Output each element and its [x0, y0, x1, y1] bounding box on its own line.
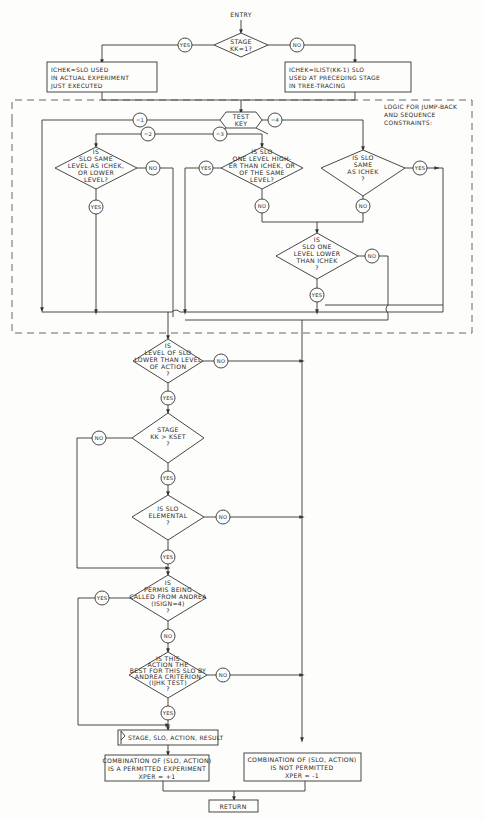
- no-connector: NO: [146, 161, 160, 175]
- yes-connector: YES: [161, 391, 175, 405]
- yes-connector: YES: [161, 471, 175, 485]
- svg-text:LEVEL OF SLO: LEVEL OF SLO: [145, 349, 192, 356]
- svg-text:YES: YES: [200, 165, 212, 171]
- decision-test-key: TEST KEY: [220, 112, 262, 128]
- entry-label: ENTRY: [230, 11, 252, 18]
- svg-text:NO: NO: [217, 358, 226, 364]
- svg-text:IS: IS: [93, 148, 99, 155]
- decision-best-action: IS THIS ACTION THE BEST FOR THIS SLO BY …: [129, 652, 207, 698]
- no-connector: NO: [92, 431, 106, 445]
- svg-text:OF ACTION: OF ACTION: [150, 363, 187, 370]
- svg-text:RETURN: RETURN: [219, 803, 246, 810]
- key-2-connector: =2: [141, 127, 155, 141]
- svg-text:IN ACTUAL EXPERIMENT: IN ACTUAL EXPERIMENT: [51, 74, 129, 81]
- svg-text:USED AT PRECEDING STAGE: USED AT PRECEDING STAGE: [289, 74, 380, 81]
- svg-text:NO: NO: [293, 42, 302, 48]
- svg-text:KK=1?: KK=1?: [230, 45, 252, 52]
- svg-text:YES: YES: [162, 710, 174, 716]
- svg-text:ELEMENTAL: ELEMENTAL: [149, 512, 188, 519]
- no-connector: NO: [216, 510, 230, 524]
- svg-text:(ISIGN=4): (ISIGN=4): [151, 600, 185, 607]
- svg-text:JUST EXECUTED: JUST EXECUTED: [50, 82, 103, 90]
- decision-one-higher: IS SLO ONE LEVEL HIGH- ER THAN ICHEK, OR…: [221, 147, 303, 189]
- svg-text:AND SEQUENCE: AND SEQUENCE: [384, 111, 436, 118]
- svg-text:COMBINATION OF (SLO, ACTION): COMBINATION OF (SLO, ACTION): [247, 756, 356, 763]
- svg-text:YES: YES: [414, 165, 426, 171]
- svg-text:=1: =1: [136, 117, 144, 123]
- svg-text:ONE LEVEL HIGH-: ONE LEVEL HIGH-: [233, 155, 292, 162]
- yes-connector: YES: [95, 591, 109, 605]
- decision-stage-kset: STAGE KK > KSET ?: [132, 413, 204, 463]
- svg-text:STAGE, SLO, ACTION, RESULT: STAGE, SLO, ACTION, RESULT: [128, 734, 224, 741]
- svg-text:LEVEL?: LEVEL?: [84, 176, 108, 183]
- svg-text:SAME: SAME: [354, 161, 373, 168]
- svg-text:IS A PERMITTED EXPERIMENT: IS A PERMITTED EXPERIMENT: [108, 765, 206, 772]
- yes-connector: YES: [161, 550, 175, 564]
- svg-text:KEY: KEY: [235, 120, 248, 127]
- process-permitted: COMBINATION OF (SLO, ACTION) IS A PERMIT…: [102, 755, 211, 781]
- svg-text:AS ICHEK: AS ICHEK: [347, 168, 379, 175]
- svg-text:COMBINATION OF (SLO, ACTION): COMBINATION OF (SLO, ACTION): [102, 757, 211, 764]
- decision-level-lower-action: IS LEVEL OF SLO LOWER THAN LEVEL OF ACTI…: [133, 339, 203, 383]
- svg-text:CALLED FROM ANDREA: CALLED FROM ANDREA: [129, 593, 207, 600]
- svg-text:?: ?: [315, 264, 319, 271]
- svg-text:IS SLO: IS SLO: [157, 505, 179, 512]
- svg-text:YES: YES: [90, 204, 102, 210]
- svg-text:NO: NO: [219, 514, 228, 520]
- no-connector: NO: [216, 668, 230, 682]
- svg-text:YES: YES: [96, 595, 108, 601]
- svg-text:STAGE: STAGE: [157, 426, 179, 433]
- svg-text:YES: YES: [162, 554, 174, 560]
- svg-text:?: ?: [361, 175, 365, 182]
- svg-text:LEVEL LOWER: LEVEL LOWER: [294, 250, 341, 257]
- svg-text:XPER = +1: XPER = +1: [138, 773, 175, 780]
- svg-text:IS: IS: [314, 236, 320, 243]
- flowchart-canvas: ENTRY STAGE KK=1? YES NO ICHEK=SLO USED …: [0, 0, 484, 820]
- svg-text:OF THE SAME: OF THE SAME: [239, 169, 285, 176]
- svg-text:LEVEL AS ICHEK,: LEVEL AS ICHEK,: [68, 162, 124, 169]
- process-ichek-slo: ICHEK=SLO USED IN ACTUAL EXPERIMENT JUST…: [47, 62, 157, 92]
- svg-text:LEVEL?: LEVEL?: [250, 176, 274, 183]
- svg-text:=3: =3: [216, 131, 224, 137]
- svg-text:LOWER THAN LEVEL: LOWER THAN LEVEL: [134, 356, 202, 363]
- decision-elemental: IS SLO ELEMENTAL ?: [132, 495, 204, 540]
- svg-text:NO: NO: [219, 672, 228, 678]
- svg-text:?: ?: [166, 685, 170, 692]
- process-ichek-ilist: ICHEK=ILIST(KK-1) SLO USED AT PRECEDING …: [285, 62, 411, 92]
- decision-stage-first: STAGE KK=1?: [214, 33, 268, 57]
- svg-text:OR LOWER: OR LOWER: [78, 169, 114, 176]
- yes-connector: YES: [178, 38, 192, 52]
- yes-connector: YES: [199, 161, 213, 175]
- svg-text:=4: =4: [271, 117, 280, 123]
- yes-connector: YES: [161, 706, 175, 720]
- svg-text:?: ?: [166, 607, 170, 614]
- svg-text:THAN ICHEK: THAN ICHEK: [295, 257, 338, 264]
- svg-text:KK > KSET: KK > KSET: [150, 433, 186, 440]
- annotation-jump-back: LOGIC FOR JUMP-BACK AND SEQUENCE CONSTRA…: [384, 103, 458, 126]
- decision-same-as-ichek: IS SLO SAME AS ICHEK ?: [321, 150, 405, 196]
- svg-text:STAGE: STAGE: [230, 38, 252, 45]
- svg-text:?: ?: [166, 370, 170, 377]
- svg-text:YES: YES: [162, 475, 174, 481]
- svg-text:CONSTRAINTS:: CONSTRAINTS:: [384, 119, 432, 126]
- jump-back-region: [12, 100, 472, 333]
- svg-text:XPER = -1: XPER = -1: [285, 772, 319, 779]
- svg-text:IS SLO: IS SLO: [352, 154, 374, 161]
- svg-text:NO: NO: [258, 203, 267, 209]
- no-connector: NO: [255, 199, 269, 213]
- svg-text:?: ?: [166, 519, 170, 526]
- svg-text:LOGIC FOR JUMP-BACK: LOGIC FOR JUMP-BACK: [384, 103, 458, 111]
- key-1-connector: =1: [133, 113, 147, 127]
- yes-connector: YES: [89, 200, 103, 214]
- svg-text:=2: =2: [144, 131, 152, 137]
- svg-text:IN TREE-TRACING: IN TREE-TRACING: [289, 82, 345, 89]
- key-4-connector: =4: [268, 113, 282, 127]
- svg-text:YES: YES: [162, 395, 174, 401]
- svg-text:NO: NO: [368, 253, 377, 259]
- svg-text:ICHEK=ILIST(KK-1) SLO: ICHEK=ILIST(KK-1) SLO: [289, 66, 364, 73]
- process-not-permitted: COMBINATION OF (SLO, ACTION) IS NOT PERM…: [244, 753, 361, 781]
- yes-connector: YES: [413, 161, 427, 175]
- yes-connector: YES: [310, 288, 324, 302]
- no-connector: NO: [290, 38, 304, 52]
- svg-text:SLO ONE: SLO ONE: [302, 243, 332, 250]
